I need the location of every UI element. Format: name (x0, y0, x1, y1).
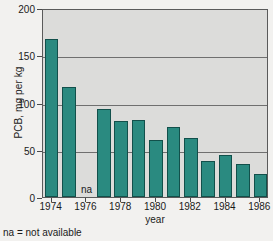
x-axis-title: year (42, 214, 268, 225)
x-tick-mark (225, 198, 226, 202)
x-tick-mark (120, 198, 121, 202)
pcb-bar-chart: PCB, mg per kg 050100150200 na 197419761… (0, 0, 273, 241)
plot-area: na (42, 9, 268, 198)
bar (132, 120, 146, 197)
bar (236, 164, 250, 197)
bar (45, 39, 59, 197)
x-tick-mark (259, 198, 260, 202)
bar (149, 140, 163, 197)
bar (62, 87, 76, 197)
bar (219, 155, 233, 197)
y-tick-label: 150 (1, 51, 35, 62)
bar (184, 138, 198, 197)
bar-series: na (43, 10, 267, 197)
bar (167, 127, 181, 197)
x-tick-mark (190, 198, 191, 202)
bar (114, 121, 128, 197)
y-tick-label: 100 (1, 98, 35, 109)
bar (254, 174, 268, 197)
y-tick-mark (37, 198, 42, 199)
na-label: na (78, 184, 95, 195)
bar (201, 161, 215, 197)
x-tick-mark (85, 198, 86, 202)
x-tick-mark (155, 198, 156, 202)
y-tick-label: 50 (1, 145, 35, 156)
x-tick-mark (51, 198, 52, 202)
y-tick-label: 200 (1, 4, 35, 15)
x-tick-label: 1986 (239, 201, 273, 212)
bar (97, 109, 111, 197)
footnote: na = not available (3, 227, 82, 238)
